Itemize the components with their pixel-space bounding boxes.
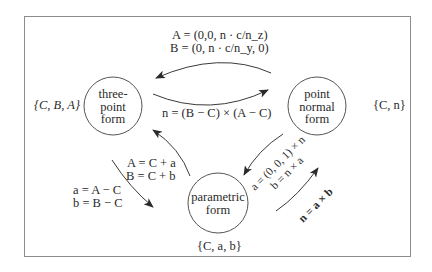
three-point-line-1: three- <box>84 88 142 101</box>
three-point-line-3: form <box>84 113 142 126</box>
three-to-normal-label: n = (B − C) × (A − C) <box>162 107 271 120</box>
parametric-to-three-label-2: B = C + b <box>126 170 176 183</box>
point-normal-set-label: {C, n} <box>373 99 406 112</box>
normal-to-three-label-2: B = (0, n · c/n_y, 0) <box>170 42 269 55</box>
arrow-three-to-normal <box>153 90 268 105</box>
three-point-set-label: {C, B, A} <box>34 99 80 112</box>
point-normal-line-1: point <box>288 88 346 101</box>
arrow-normal-to-three <box>156 63 271 78</box>
three-to-parametric-label-2: b = B − C <box>73 197 123 210</box>
parametric-line-2: form <box>186 204 250 217</box>
parametric-node-label: parametric form <box>186 191 250 216</box>
point-normal-line-3: form <box>288 113 346 126</box>
point-normal-node-label: point normal form <box>288 88 346 126</box>
parametric-line-1: parametric <box>186 191 250 204</box>
parametric-set-label: {C, a, b} <box>197 240 242 253</box>
three-point-node-label: three- point form <box>84 88 142 126</box>
